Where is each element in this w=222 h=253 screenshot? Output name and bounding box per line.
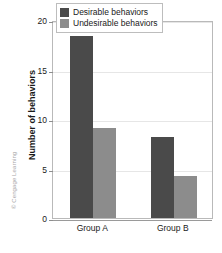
gridline [53,220,212,221]
y-tick-label: 5 [7,165,47,175]
bar [93,128,116,218]
legend-item: Undesirable behaviors [60,18,158,29]
plot-area [52,21,213,219]
y-tick-label: 0 [7,214,47,224]
y-tick-mark [49,72,53,73]
plot-inner [53,22,212,218]
legend-item: Desirable behaviors [60,7,158,18]
bar-chart-figure: © Cengage Learning Number of behaviors 0… [0,0,222,253]
legend-label: Undesirable behaviors [73,18,158,29]
legend-label: Desirable behaviors [73,7,148,18]
bar [70,36,93,218]
x-tick-label: Group A [57,223,127,233]
chart-legend: Desirable behaviorsUndesirable behaviors [56,3,163,33]
legend-swatch [60,19,69,28]
bar-group [151,22,197,218]
bar [174,176,197,218]
y-tick-label: 20 [7,16,47,26]
legend-swatch [60,8,69,17]
y-tick-mark [49,22,53,23]
y-tick-label: 10 [7,115,47,125]
x-tick-label: Group B [138,223,208,233]
y-tick-mark [49,171,53,172]
bar [151,137,174,218]
y-tick-mark [49,220,53,221]
y-tick-label: 15 [7,66,47,76]
y-tick-mark [49,121,53,122]
bar-group [70,22,116,218]
